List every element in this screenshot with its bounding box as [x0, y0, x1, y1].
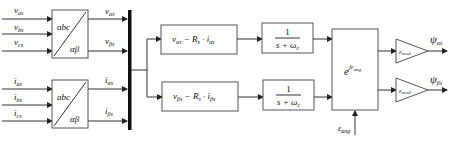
svg-text:εang: εang [338, 124, 350, 134]
svg-text:αβ: αβ [70, 114, 80, 124]
svg-text:vas: vas [14, 5, 24, 16]
svg-text:αβ: αβ [70, 44, 80, 54]
current-inputs: ias ibs ics [2, 76, 52, 121]
flux-outputs: ψαs ψβs [428, 33, 447, 90]
svg-text:abc: abc [57, 92, 70, 102]
angle-input: εang [338, 111, 355, 135]
svg-text:vβs: vβs [105, 36, 115, 47]
svg-text:iβs: iβs [105, 106, 114, 117]
svg-text:abc: abc [57, 22, 70, 32]
emf-block-alpha: vαs − Rs · iαs [161, 25, 237, 54]
transform-outputs: vαs vβs iαs iβs [88, 6, 127, 121]
svg-text:vbs: vbs [14, 22, 24, 33]
rotation-block: ejεang [332, 29, 378, 110]
svg-text:ibs: ibs [14, 92, 23, 103]
emf-block-beta: vβs − Rs · iβs [162, 82, 238, 111]
signal-bus [128, 10, 132, 130]
clarke-transform-current: abc αβ [52, 80, 88, 128]
svg-text:s + ωc: s + ωc [276, 40, 299, 51]
svg-text:vαs: vαs [105, 6, 115, 17]
svg-text:ias: ias [14, 76, 23, 87]
svg-text:vcs: vcs [14, 37, 24, 48]
flux-estimator-diagram: vas vbs vcs ias ibs ics abc αβ abc αβ vα… [0, 0, 456, 142]
svg-text:1: 1 [285, 27, 290, 37]
lowpass-filter-alpha: 1 s + ωc [262, 23, 313, 53]
voltage-inputs: vas vbs vcs [2, 5, 52, 51]
lowpass-filter-beta: 1 s + ωc [263, 80, 314, 110]
svg-text:ψβs: ψβs [430, 73, 443, 86]
svg-text:s + ωc: s + ωc [277, 97, 300, 108]
svg-text:ψαs: ψαs [430, 33, 443, 46]
gain-block-alpha: εmod [396, 39, 428, 63]
bus-branch [131, 39, 162, 97]
svg-text:iαs: iαs [105, 75, 114, 86]
svg-text:1: 1 [286, 84, 291, 94]
svg-text:ics: ics [14, 108, 22, 119]
gain-block-beta: εmod [396, 78, 428, 102]
clarke-transform-voltage: abc αβ [52, 10, 88, 58]
